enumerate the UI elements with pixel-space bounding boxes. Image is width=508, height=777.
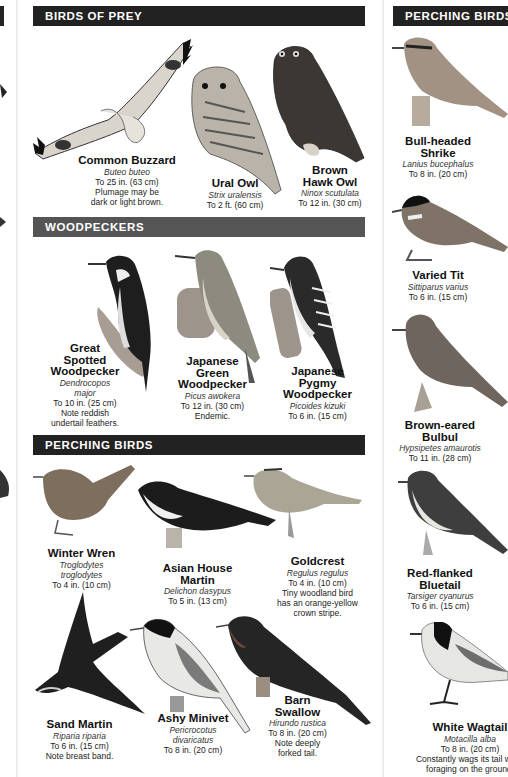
bull-headed-shrike-illustration <box>392 36 508 131</box>
bird-size: To 6 in. (15 cm) <box>275 411 360 421</box>
bird-size: To 2 ft. (60 cm) <box>195 200 275 210</box>
bird-scientific-name: Hirundo rustica <box>260 718 335 728</box>
bird-name: Asian House <box>155 563 240 575</box>
bird-name: Ural Owl <box>195 178 275 190</box>
bird-name: Ashy Minivet <box>153 713 233 725</box>
winter-wren-caption: Winter Wren Troglodytes troglodytes To 4… <box>44 548 119 590</box>
ural-owl-caption: Ural Owl Strix uralensis To 2 ft. (60 cm… <box>195 178 275 210</box>
varied-tit-illustration <box>392 192 508 264</box>
white-wagtail-caption: White Wagtail Motacilla alba To 8 in. (2… <box>395 722 508 774</box>
bird-scientific-name: Tarsiger cyanurus <box>392 591 488 601</box>
bird-size: To 4 in. (10 cm) <box>270 578 365 588</box>
bird-note: foraging on the ground. <box>395 764 508 774</box>
bird-size: To 6 in. (15 cm) <box>392 601 488 611</box>
bird-note: Endemic. <box>170 411 255 421</box>
bird-size: To 4 in. (10 cm) <box>44 580 119 590</box>
bird-scientific-name: Lanius bucephalus <box>392 159 484 169</box>
bird-note: Plumage may be <box>72 187 182 197</box>
bird-scientific-name: Regulus regulus <box>270 568 365 578</box>
bird-note: Note breast band. <box>42 751 117 761</box>
bird-size: To 10 in. (25 cm) <box>45 398 125 408</box>
bird-scientific-name: Dendrocopos <box>45 378 125 388</box>
bird-name: Japanese <box>275 366 360 378</box>
bird-note: Tiny woodland bird <box>270 588 365 598</box>
red-flanked-bluetail-caption: Red-flanked Bluetail Tarsiger cyanurus T… <box>392 568 488 611</box>
brown-eared-bulbul-illustration <box>392 312 508 417</box>
common-buzzard-caption: Common Buzzard Buteo buteo To 25 in. (63… <box>72 155 182 207</box>
brown-eared-bulbul-caption: Brown-eared Bulbul Hypsipetes amaurotis … <box>392 420 488 463</box>
asian-house-martin-caption: Asian House Martin Delichon dasypus To 5… <box>155 563 240 606</box>
red-flanked-bluetail-illustration <box>398 470 508 560</box>
bird-note: Constantly wags its tail while <box>395 754 508 764</box>
bird-note: Note reddish <box>45 408 125 418</box>
bird-note: Note deeply <box>260 738 335 748</box>
great-spotted-woodpecker-caption: Great Spotted Woodpecker Dendrocopos maj… <box>45 343 125 428</box>
bird-size: To 6 in. (15 cm) <box>42 741 117 751</box>
bird-name: Bull-headed <box>392 136 484 148</box>
bird-name: Japanese <box>170 356 255 368</box>
bird-size: To 8 in. (20 cm) <box>260 728 335 738</box>
bird-scientific-name: Sittiparus varius <box>392 282 484 292</box>
section-header-perching-birds-right: PERCHING BIRDS <box>393 6 508 26</box>
bird-size: To 12 in. (30 cm) <box>290 198 370 208</box>
bird-name: White Wagtail <box>395 722 508 734</box>
bird-name: Sand Martin <box>42 719 117 731</box>
bird-scientific-name: Buteo buteo <box>72 167 182 177</box>
bird-scientific-name: Picus awokera <box>170 391 255 401</box>
varied-tit-caption: Varied Tit Sittiparus varius To 6 in. (1… <box>392 270 484 302</box>
bird-size: To 8 in. (20 cm) <box>395 744 508 754</box>
bird-size: To 5 in. (13 cm) <box>155 596 240 606</box>
bird-note: forked tail. <box>260 748 335 758</box>
bird-scientific-name: Hypsipetes amaurotis <box>392 443 488 453</box>
bird-name: Goldcrest <box>270 556 365 568</box>
goldcrest-caption: Goldcrest Regulus regulus To 4 in. (10 c… <box>270 556 365 618</box>
bird-scientific-name: Troglodytes <box>44 560 119 570</box>
bird-size: To 11 in. (28 cm) <box>392 453 488 463</box>
bird-name: Varied Tit <box>392 270 484 282</box>
bird-name: Shrike <box>392 148 484 160</box>
japanese-green-woodpecker-caption: Japanese Green Woodpecker Picus awokera … <box>170 356 255 421</box>
bird-size: To 25 in. (63 cm) <box>72 177 182 187</box>
bird-name: Woodpecker <box>170 379 255 391</box>
brown-hawk-owl-illustration <box>268 40 368 165</box>
winter-wren-illustration <box>33 465 138 540</box>
bird-name: Brown <box>290 165 370 177</box>
bird-scientific-name: Motacilla alba <box>395 734 508 744</box>
cropped-bird-fragment-icon <box>0 80 8 100</box>
bird-scientific-name: Ninox scutulata <box>290 188 370 198</box>
brown-hawk-owl-caption: Brown Hawk Owl Ninox scutulata To 12 in.… <box>290 165 370 208</box>
bird-name: Great <box>45 343 125 355</box>
bird-name: Woodpecker <box>275 389 360 401</box>
section-header-birds-of-prey: BIRDS OF PREY <box>33 6 365 26</box>
white-wagtail-illustration <box>410 622 508 712</box>
ashy-minivet-caption: Ashy Minivet Pericrocotus divaricatus To… <box>153 713 233 755</box>
common-buzzard-illustration <box>33 35 193 160</box>
section-header-woodpeckers: WOODPECKERS <box>33 217 365 237</box>
bird-note: has an orange-yellow <box>270 598 365 608</box>
bird-scientific-name: Pericrocotus <box>153 725 233 735</box>
bird-name: Bluetail <box>392 580 488 592</box>
cropped-bird-fragment-icon <box>0 215 8 229</box>
sand-martin-caption: Sand Martin Riparia riparia To 6 in. (15… <box>42 719 117 761</box>
bird-size: To 8 in. (20 cm) <box>392 169 484 179</box>
bird-size: To 6 in. (15 cm) <box>392 292 484 302</box>
page-gutter-left <box>16 0 18 777</box>
japanese-pygmy-woodpecker-caption: Japanese Pygmy Woodpecker Picoides kizuk… <box>275 366 360 421</box>
barn-swallow-caption: Barn Swallow Hirundo rustica To 8 in. (2… <box>260 695 335 758</box>
bird-name: Winter Wren <box>44 548 119 560</box>
cropped-bird-fragment-icon <box>0 470 12 500</box>
japanese-pygmy-woodpecker-illustration <box>270 248 360 383</box>
page-gutter-right <box>382 0 384 777</box>
bird-name: Swallow <box>260 707 335 719</box>
bird-scientific-name: Strix uralensis <box>195 190 275 200</box>
bull-headed-shrike-caption: Bull-headed Shrike Lanius bucephalus To … <box>392 136 484 179</box>
bird-name: Woodpecker <box>45 366 125 378</box>
bird-note: dark or light brown. <box>72 197 182 207</box>
bird-name: Hawk Owl <box>290 177 370 189</box>
bird-size: To 8 in. (20 cm) <box>153 745 233 755</box>
bird-note: undertail feathers. <box>45 418 125 428</box>
bird-name: Common Buzzard <box>72 155 182 167</box>
bird-size: To 12 in. (30 cm) <box>170 401 255 411</box>
bird-scientific-name: Picoides kizuki <box>275 401 360 411</box>
bird-name: Brown-eared <box>392 420 488 432</box>
